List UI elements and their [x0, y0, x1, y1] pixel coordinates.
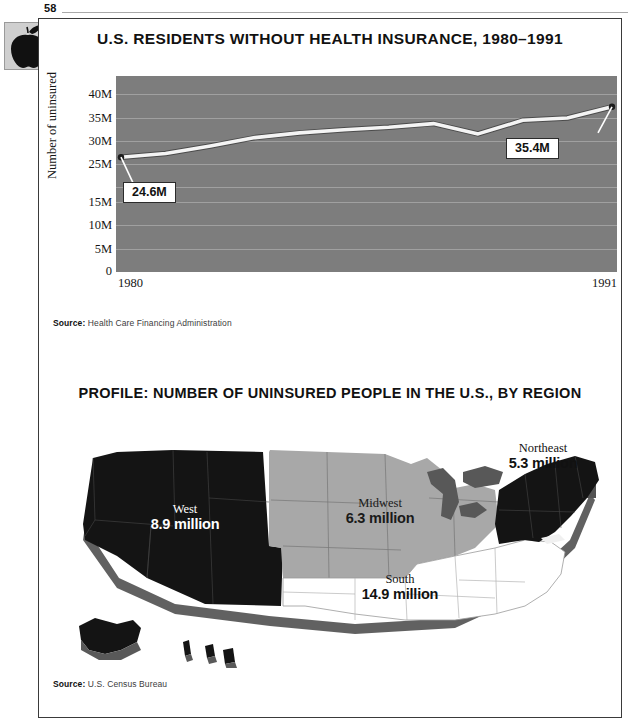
- y-axis-ticks: 40M 35M 30M 25M 15M 10M 5M 0: [64, 76, 112, 272]
- source-text: Health Care Financing Administration: [88, 318, 232, 328]
- insurance-line-plot: [116, 76, 617, 272]
- y-tick: 30M: [68, 133, 112, 148]
- y-tick: 10M: [68, 218, 112, 233]
- region-northeast: [495, 456, 599, 544]
- source-label: Source:: [53, 679, 85, 689]
- region-map-title: PROFILE: NUMBER OF UNINSURED PEOPLE IN T…: [38, 385, 622, 401]
- region-west: [83, 450, 283, 606]
- insurance-source: Source: Health Care Financing Administra…: [53, 318, 232, 328]
- x-tick-end: 1991: [592, 276, 617, 291]
- source-text: U.S. Census Bureau: [88, 679, 167, 689]
- header-rule: [62, 12, 628, 13]
- y-tick: 0: [68, 264, 112, 279]
- region-source: Source: U.S. Census Bureau: [53, 679, 167, 689]
- x-tick-start: 1980: [118, 276, 143, 291]
- region-hawaii: [183, 640, 237, 668]
- y-tick: 15M: [68, 195, 112, 210]
- y-tick: 25M: [68, 157, 112, 172]
- y-axis-title: Number of uninsured: [45, 56, 60, 196]
- y-tick: 40M: [68, 87, 112, 102]
- insurance-chart-title: U.S. RESIDENTS WITHOUT HEALTH INSURANCE,…: [38, 30, 622, 48]
- us-region-map: [55, 428, 625, 668]
- y-tick: 5M: [68, 241, 112, 256]
- page-number: 58: [44, 2, 57, 14]
- data-series-line: [116, 76, 617, 272]
- map-graphic: [55, 428, 625, 668]
- y-tick: 35M: [68, 110, 112, 125]
- callout-end-value: 35.4M: [506, 138, 559, 159]
- callout-start-value: 24.6M: [123, 182, 176, 203]
- source-label: Source:: [53, 318, 85, 328]
